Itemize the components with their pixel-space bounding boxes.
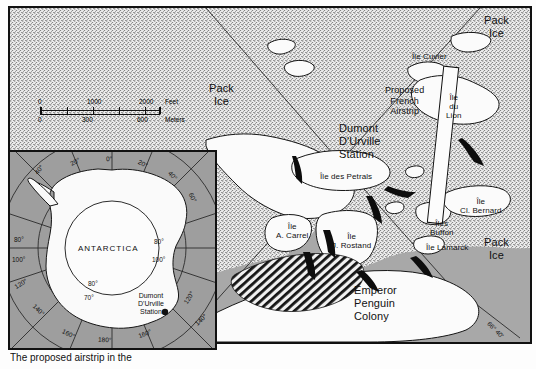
label-proposed-french-airstrip: Proposed French Airstrip	[385, 85, 424, 117]
label-pack-ice-right: Pack Ice	[484, 236, 509, 262]
scale-meters-unit: Meters	[165, 116, 185, 123]
label-ile-cuvier: Île Cuvier	[412, 52, 447, 61]
inset-lon-100e: 100°	[152, 256, 165, 263]
map-figure: 0 1000 2000 Feet 0 300 600 Meters	[0, 0, 536, 369]
label-pack-ice-left: Pack Ice	[209, 82, 234, 108]
inset-lon-180: 180°	[98, 336, 112, 343]
scale-bar: 0 1000 2000 Feet 0 300 600 Meters	[40, 98, 160, 125]
label-ile-cl-bernard: Île Cl. Bernard	[460, 197, 502, 215]
inset-lat-70: 70°	[84, 294, 94, 301]
inset-lon-0: 0°	[106, 155, 113, 162]
inset-lon-100w: 100°	[12, 256, 25, 263]
label-ile-j-rostand: Île J. Rostand	[332, 232, 371, 250]
inset-title: ANTARCTICA	[78, 244, 139, 253]
scale-feet-2000: 2000	[139, 98, 153, 105]
inset-lon-80e: 80°	[154, 238, 164, 245]
label-pack-ice-top-right: Pack Ice	[484, 14, 509, 40]
scale-feet-1000: 1000	[87, 98, 101, 105]
scale-meters-300: 300	[82, 116, 93, 123]
scale-feet-labels: 0 1000 2000 Feet	[40, 98, 160, 107]
label-ile-lamarck: Île Lamarck	[426, 243, 468, 252]
inset-lon-80w: 80°	[14, 236, 24, 243]
scale-meters-600: 600	[137, 116, 148, 123]
label-iles-buffon: Îles Buffon	[430, 219, 454, 237]
inset-map-antarctica: ANTARCTICA Dumont D'Urville Station 40° …	[8, 150, 217, 350]
label-emperor-penguin-colony: Emperor Penguin Colony	[354, 284, 397, 323]
figure-caption: The proposed airstrip in the	[10, 352, 510, 368]
scale-feet-unit: Feet	[165, 98, 178, 105]
inset-station-label: Dumont D'Urville Station	[138, 292, 164, 316]
scale-meters-0: 0	[38, 116, 42, 123]
scale-feet-0: 0	[38, 98, 42, 105]
label-dumont-durville-station: Dumont D'Urville Station	[339, 122, 381, 161]
label-ile-a-carrel: Île A. Carrel	[276, 222, 308, 240]
scale-axis	[40, 107, 160, 115]
label-ile-du-lion: Île du Lion	[446, 93, 462, 120]
inset-lat-80: 80°	[88, 280, 98, 287]
scale-meters-labels: 0 300 600 Meters	[40, 115, 160, 125]
label-ile-des-petrals: Île des Petrals	[320, 172, 372, 181]
